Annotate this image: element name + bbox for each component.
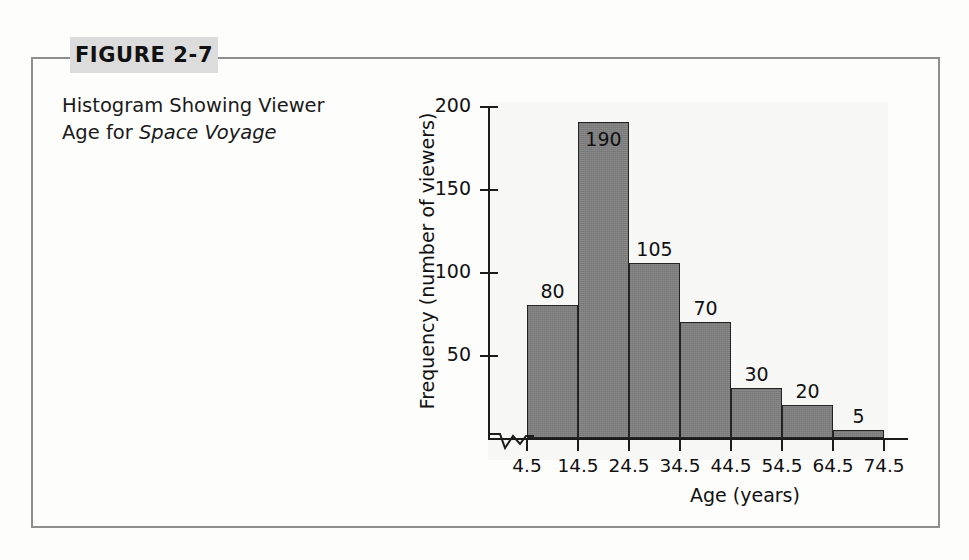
x-tick-34.5	[679, 438, 681, 451]
x-tick-label-34.5: 34.5	[659, 455, 700, 476]
x-tick-label-24.5: 24.5	[608, 455, 649, 476]
caption-title-italic: Space Voyage	[139, 121, 277, 144]
bar-64.5-74.5	[833, 430, 884, 438]
bar-value-label-4.5-14.5: 80	[540, 280, 564, 302]
bar-4.5-14.5	[527, 305, 578, 438]
caption-line-2-prefix: Age for	[62, 121, 139, 144]
y-tick-label-150: 150	[435, 177, 480, 199]
x-tick-label-74.5: 74.5	[863, 455, 904, 476]
figure-caption: Histogram Showing Viewer Age for Space V…	[62, 92, 372, 146]
figure-number-text: FIGURE 2-7	[75, 43, 213, 67]
axis-break-icon	[490, 432, 534, 456]
bar-value-label-64.5-74.5: 5	[852, 405, 864, 427]
bar-54.5-64.5	[782, 405, 833, 438]
x-axis-line	[488, 438, 908, 440]
x-tick-64.5	[832, 438, 834, 451]
y-tick-200: 200	[480, 106, 498, 108]
bar-value-label-14.5-24.5: 190	[585, 128, 621, 150]
x-tick-24.5	[628, 438, 630, 451]
x-tick-54.5	[781, 438, 783, 451]
x-tick-44.5	[730, 438, 732, 451]
y-tick-150: 150	[480, 189, 498, 191]
y-tick-100: 100	[480, 272, 498, 274]
y-tick-label-50: 50	[447, 343, 480, 365]
bar-24.5-34.5	[629, 263, 680, 438]
x-tick-label-14.5: 14.5	[557, 455, 598, 476]
caption-line-2: Age for Space Voyage	[62, 119, 372, 146]
bar-value-label-44.5-54.5: 30	[744, 363, 768, 385]
x-tick-14.5	[577, 438, 579, 451]
x-tick-74.5	[883, 438, 885, 451]
x-tick-label-44.5: 44.5	[710, 455, 751, 476]
bar-value-label-54.5-64.5: 20	[795, 380, 819, 402]
histogram-chart: Frequency (number of viewers) 5010015020…	[390, 80, 935, 510]
figure-number-tag: FIGURE 2-7	[70, 37, 218, 73]
bar-14.5-24.5	[578, 122, 629, 438]
bar-34.5-44.5	[680, 322, 731, 438]
bar-value-label-34.5-44.5: 70	[693, 297, 717, 319]
bar-value-label-24.5-34.5: 105	[636, 238, 672, 260]
x-axis-label: Age (years)	[690, 484, 800, 506]
x-tick-label-64.5: 64.5	[812, 455, 853, 476]
y-tick-50: 50	[480, 355, 498, 357]
caption-line-1: Histogram Showing Viewer	[62, 92, 372, 119]
bar-44.5-54.5	[731, 388, 782, 438]
y-tick-label-100: 100	[435, 260, 480, 282]
y-tick-label-200: 200	[435, 94, 480, 116]
x-tick-label-4.5: 4.5	[512, 455, 541, 476]
x-tick-label-54.5: 54.5	[761, 455, 802, 476]
